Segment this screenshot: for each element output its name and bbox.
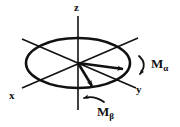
m-beta-label: Mβ <box>97 105 114 121</box>
m-alpha-label: Mα <box>151 57 168 73</box>
x-axis-label: x <box>9 90 15 101</box>
y-axis-label: y <box>136 84 142 95</box>
z-axis-label: z <box>74 2 79 13</box>
m-alpha-label-base: M <box>151 56 163 71</box>
m-alpha-label-subscript: α <box>163 63 168 73</box>
m-beta-label-base: M <box>97 104 109 119</box>
figure-root: z x y Mα Mβ <box>0 0 180 127</box>
m-alpha-precession-arc <box>139 56 144 74</box>
m-beta-precession-arc <box>84 97 104 102</box>
m-beta-label-subscript: β <box>109 111 114 121</box>
